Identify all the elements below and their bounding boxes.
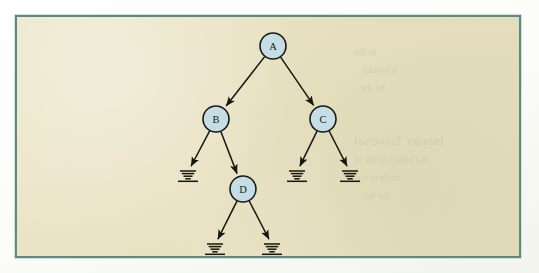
null-leaf-marker	[205, 244, 225, 254]
tree-node-c: C	[310, 106, 336, 132]
tree-edge-a-to-c	[281, 57, 314, 105]
tree-edge-c-to-n2	[300, 131, 317, 166]
tree-edge-d-to-n4	[218, 201, 237, 239]
null-leaf-marker	[287, 171, 307, 181]
tree-edge-b-to-d	[221, 132, 237, 174]
tree-node-d: D	[230, 176, 256, 202]
null-leaf-marker	[262, 244, 282, 254]
tree-edge-a-to-b	[226, 57, 265, 106]
tree-edge-b-to-n1	[191, 131, 210, 166]
null-leaves-layer	[178, 171, 360, 254]
node-label: C	[319, 114, 326, 125]
page-canvas: Inorder Traversalthe nodes of the binode…	[0, 0, 539, 273]
tree-edge-d-to-n5	[249, 201, 269, 239]
null-leaf-marker	[340, 171, 360, 181]
edges-layer	[191, 57, 347, 240]
tree-node-a: A	[260, 33, 286, 59]
tree-node-b: B	[203, 106, 229, 132]
node-label: A	[269, 41, 277, 52]
node-label: B	[212, 114, 219, 125]
null-leaf-marker	[178, 171, 198, 181]
binary-tree-graphic: ABCD	[0, 0, 539, 273]
nodes-layer: ABCD	[203, 33, 336, 202]
node-label: D	[239, 184, 247, 195]
tree-edge-c-to-n3	[329, 131, 347, 166]
